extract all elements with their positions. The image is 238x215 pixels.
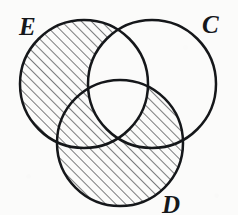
venn-diagram-figure: E C D — [0, 0, 238, 215]
set-label-e: E — [19, 14, 36, 39]
set-label-d: D — [162, 192, 180, 215]
set-label-c: C — [202, 12, 219, 37]
